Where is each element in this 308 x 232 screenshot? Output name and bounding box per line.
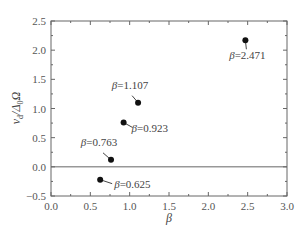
point-marker xyxy=(97,177,103,183)
y-axis-title: vd/Δ0Ω xyxy=(9,91,25,124)
point-marker xyxy=(135,100,141,106)
y-tick-label: 0.0 xyxy=(32,161,46,173)
y-tick-label: 1.5 xyxy=(32,73,46,85)
data-point: β=2.471 xyxy=(228,37,265,61)
x-tick-label: 0.5 xyxy=(83,200,97,212)
point-marker xyxy=(242,37,248,43)
y-tick-label: −0.5 xyxy=(26,190,46,202)
point-annotation: β=1.107 xyxy=(111,79,149,91)
x-tick-label: 0.0 xyxy=(44,200,58,212)
data-point: β=0.625 xyxy=(97,177,151,190)
x-tick-label: 2.0 xyxy=(201,200,215,212)
point-marker xyxy=(108,157,114,163)
data-point: β=0.923 xyxy=(121,120,169,134)
point-annotation: β=0.763 xyxy=(80,136,118,148)
y-tick-label: 2.5 xyxy=(32,15,46,27)
y-tick-labels: −0.50.00.51.01.52.02.5 xyxy=(26,15,46,202)
x-axis-title: β xyxy=(165,211,172,225)
axis-ticks xyxy=(51,21,287,196)
y-tick-label: 1.0 xyxy=(32,103,46,115)
x-tick-label: 2.5 xyxy=(241,200,255,212)
point-annotation: β=0.923 xyxy=(131,122,169,134)
point-marker xyxy=(121,120,127,126)
scatter-chart: 0.00.51.01.52.02.53.0 −0.50.00.51.01.52.… xyxy=(0,0,308,232)
point-annotation: β=2.471 xyxy=(228,49,265,61)
x-tick-label: 1.0 xyxy=(123,200,137,212)
y-tick-label: 0.5 xyxy=(32,132,46,144)
y-tick-label: 2.0 xyxy=(32,44,46,56)
plot-frame xyxy=(51,21,287,196)
data-point: β=1.107 xyxy=(111,79,149,106)
point-annotation: β=0.625 xyxy=(113,178,151,190)
data-point: β=0.763 xyxy=(80,136,118,163)
x-tick-label: 3.0 xyxy=(280,200,294,212)
